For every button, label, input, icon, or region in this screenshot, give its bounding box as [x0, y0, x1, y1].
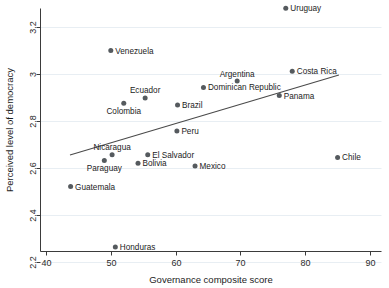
y-tick-label-2.4: 2.4	[28, 209, 38, 222]
tick-marks	[37, 28, 371, 263]
y-tick-label-3: 3	[28, 72, 38, 77]
data-point-label: Uruguay	[290, 4, 322, 13]
data-point[interactable]	[136, 161, 141, 166]
data-point-label: Brazil	[182, 101, 203, 110]
data-point-label: Costa Rica	[297, 67, 337, 76]
data-point[interactable]	[290, 69, 295, 74]
data-point-label: Dominican Republic	[208, 83, 281, 92]
x-axis-title: Governance composite score	[149, 274, 273, 285]
y-tick-label-2.6: 2.6	[28, 162, 38, 175]
data-point-label: Ecuador	[130, 86, 161, 95]
x-tick-label-40: 40	[41, 258, 51, 268]
axis-titles: Governance composite scorePerceived leve…	[4, 68, 273, 285]
data-point[interactable]	[113, 244, 118, 249]
y-axis-title: Perceived level of democracy	[4, 68, 15, 192]
data-point-label: Argentina	[220, 70, 255, 79]
data-point-label: Bolivia	[143, 159, 168, 168]
data-point-label: Guatemala	[75, 183, 115, 192]
plot-canvas: 2.22.42.62.833.2405060708090 UruguayVene…	[0, 0, 389, 288]
data-point[interactable]	[193, 164, 198, 169]
data-point-label: Chile	[342, 153, 361, 162]
data-point[interactable]	[102, 158, 107, 163]
gridlines	[41, 28, 382, 263]
data-point-label: Venezuela	[115, 47, 154, 56]
data-point[interactable]	[283, 6, 288, 11]
data-point[interactable]	[335, 155, 340, 160]
data-point[interactable]	[110, 152, 115, 157]
y-tick-label-3.2: 3.2	[28, 21, 38, 34]
x-tick-label-50: 50	[106, 258, 116, 268]
data-point-label: Nicaragua	[93, 143, 131, 152]
data-point[interactable]	[121, 101, 126, 106]
data-point-label: Colombia	[106, 107, 141, 116]
y-tick-label-2.2: 2.2	[28, 256, 38, 269]
x-tick-label-60: 60	[171, 258, 181, 268]
x-tick-label-80: 80	[300, 258, 310, 268]
data-point[interactable]	[145, 152, 150, 157]
data-point[interactable]	[277, 93, 282, 98]
x-tick-label-70: 70	[235, 258, 245, 268]
point-labels: UruguayVenezuelaCosta RicaArgentinaDomin…	[75, 4, 361, 252]
data-point-label: Mexico	[200, 162, 226, 171]
x-tick-label-90: 90	[365, 258, 375, 268]
data-point[interactable]	[143, 95, 148, 100]
data-point-label: Paraguay	[87, 164, 123, 173]
scatter-chart-figure: 2.22.42.62.833.2405060708090 UruguayVene…	[0, 0, 389, 288]
y-tick-label-2.8: 2.8	[28, 115, 38, 128]
data-point-label: Peru	[181, 127, 199, 136]
data-point-label: Honduras	[120, 243, 156, 252]
data-point[interactable]	[175, 103, 180, 108]
data-point-label: Panama	[284, 92, 315, 101]
data-point[interactable]	[68, 184, 73, 189]
tick-labels: 2.22.42.62.833.2405060708090	[28, 21, 376, 269]
data-points	[68, 6, 340, 250]
data-point[interactable]	[201, 85, 206, 90]
data-point[interactable]	[174, 129, 179, 134]
data-point[interactable]	[108, 48, 113, 53]
